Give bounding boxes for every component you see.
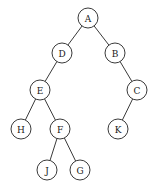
node-label-j: J <box>44 166 49 176</box>
tree-edge-c-k <box>122 99 132 120</box>
tree-node-j[interactable]: J <box>37 160 57 180</box>
tree-edge-a-d <box>68 26 82 45</box>
tree-edge-d-e <box>45 62 57 82</box>
tree-edge-b-c <box>120 62 132 82</box>
tree-node-c[interactable]: C <box>127 80 147 100</box>
node-label-c: C <box>134 86 141 96</box>
tree-edge-f-g <box>64 138 75 161</box>
tree-edge-a-b <box>94 26 109 45</box>
tree-node-d[interactable]: D <box>52 43 72 63</box>
tree-node-b[interactable]: B <box>105 43 125 63</box>
node-label-h: H <box>17 125 25 135</box>
tree-node-h[interactable]: H <box>11 119 31 139</box>
tree-node-g[interactable]: G <box>70 160 90 180</box>
tree-edge-e-f <box>45 99 56 120</box>
node-label-b: B <box>112 49 119 59</box>
tree-canvas: ADBECHFKJG <box>0 0 156 192</box>
node-label-e: E <box>37 86 44 96</box>
node-label-f: F <box>57 125 63 135</box>
tree-node-e[interactable]: E <box>30 80 50 100</box>
binary-tree-figure: ADBECHFKJG <box>0 0 156 192</box>
node-label-a: A <box>84 14 92 24</box>
node-label-k: K <box>115 125 122 135</box>
node-label-g: G <box>76 166 83 176</box>
tree-node-k[interactable]: K <box>108 119 128 139</box>
tree-edge-f-j <box>50 139 57 161</box>
tree-node-f[interactable]: F <box>50 119 70 139</box>
tree-node-a[interactable]: A <box>78 8 98 28</box>
tree-edge-e-h <box>25 99 35 120</box>
node-label-d: D <box>58 49 65 59</box>
node-layer: ADBECHFKJG <box>11 8 147 180</box>
